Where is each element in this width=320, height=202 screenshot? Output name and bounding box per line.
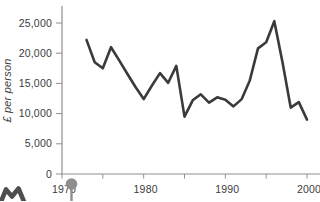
corner-decoration xyxy=(0,0,320,201)
letter-m-glyph xyxy=(0,189,25,202)
chart-figure: 05,00010,00015,00020,00025,0001970198019… xyxy=(0,0,320,201)
map-pin-icon xyxy=(66,178,78,190)
